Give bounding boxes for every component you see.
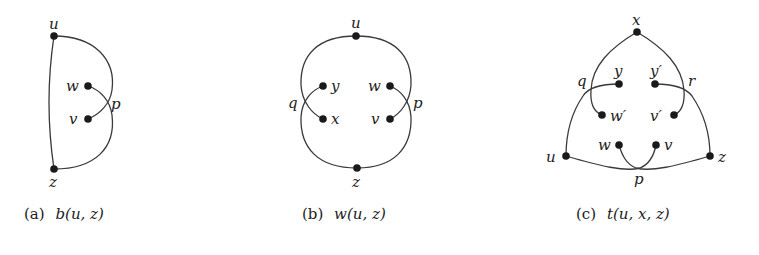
node-u	[50, 32, 58, 40]
node-x	[319, 115, 327, 123]
node-y-prime	[651, 80, 659, 88]
edge-w-z	[54, 86, 112, 169]
label-z: z	[351, 173, 360, 191]
node-w-prime	[598, 111, 606, 119]
label-u: u	[351, 14, 361, 32]
label-p: p	[111, 95, 121, 113]
label-p: p	[413, 94, 423, 112]
node-w	[615, 141, 623, 149]
node-v-prime	[670, 111, 678, 119]
label-q: q	[577, 72, 587, 90]
caption-c: (c) t(u, x, z)	[576, 205, 670, 223]
edge-u-x	[301, 36, 356, 119]
edge-u-z	[49, 36, 54, 169]
label-x: x	[331, 110, 340, 128]
label-x: x	[632, 11, 641, 29]
node-y	[319, 82, 327, 90]
label-w: w	[66, 77, 79, 95]
caption-b: (b) w(u, z)	[302, 205, 386, 223]
node-u	[352, 32, 360, 40]
node-x	[633, 28, 641, 36]
node-z	[50, 165, 58, 173]
label-z: z	[717, 148, 726, 166]
caption-c-math: t(u, x, z)	[607, 205, 670, 223]
label-q: q	[288, 94, 298, 112]
node-y	[615, 80, 623, 88]
figure-canvas: u z w v p (a) b(u, z) u z y x w v q p (b…	[0, 0, 759, 255]
caption-a-math: b(u, z)	[55, 205, 104, 223]
edge-y-z	[301, 86, 357, 168]
edge-w-z	[357, 86, 411, 168]
label-y: y	[330, 77, 340, 95]
caption-c-prefix: (c)	[576, 205, 596, 223]
diagram-a: u z w v p (a) b(u, z)	[24, 15, 121, 223]
node-v	[84, 115, 92, 123]
caption-a-prefix: (a)	[24, 205, 45, 223]
caption-a: (a) b(u, z)	[24, 205, 104, 223]
node-v	[652, 141, 660, 149]
node-w	[386, 82, 394, 90]
label-y: y	[613, 62, 623, 80]
diagram-b: u z y x w v q p (b) w(u, z)	[288, 14, 423, 223]
label-u: u	[546, 148, 556, 166]
node-z	[353, 164, 361, 172]
edge-u-v	[54, 36, 112, 119]
node-u	[562, 152, 570, 160]
label-v: v	[664, 136, 673, 154]
label-u: u	[49, 15, 59, 33]
label-v: v	[69, 110, 78, 128]
label-v-prime: v′	[650, 107, 662, 125]
label-r: r	[688, 72, 696, 90]
label-w-prime: w′	[610, 107, 627, 125]
edge-u-v	[566, 145, 656, 169]
node-v	[386, 115, 394, 123]
diagram-c: x y y′ w′ v′ w v u z q r p (c) t(u, x, z…	[546, 11, 726, 223]
node-z	[706, 152, 714, 160]
caption-b-prefix: (b)	[302, 205, 323, 223]
label-w: w	[368, 77, 381, 95]
label-y-prime: y′	[649, 62, 662, 80]
label-z: z	[48, 173, 57, 191]
edge-u-v	[356, 36, 411, 119]
label-v: v	[371, 110, 380, 128]
node-w	[84, 82, 92, 90]
label-p: p	[634, 170, 644, 188]
caption-b-math: w(u, z)	[334, 205, 386, 223]
label-w: w	[598, 136, 611, 154]
